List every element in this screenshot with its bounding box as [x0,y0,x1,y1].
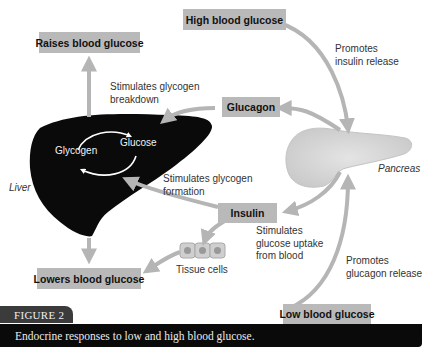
glucose-label: Glucose [120,137,157,148]
liver-label: Liver [9,182,31,195]
stimulates-glucose-uptake-label: Stimulates glucose uptake from blood [256,225,323,263]
glycogen-label: Glycogen [55,145,97,156]
stimulates-glycogen-formation-label: Stimulates glycogen formation [163,173,253,198]
insulin-box: Insulin [218,203,277,223]
low-blood-glucose-box: Low blood glucose [283,304,371,324]
tissue-cells-shape [180,243,225,258]
tissue-cells-label: Tissue cells [176,264,228,277]
promotes-insulin-release-label: Promotes insulin release [335,43,399,68]
figure-caption: Endocrine responses to low and high bloo… [0,324,422,347]
high-blood-glucose-box: High blood glucose [183,9,286,30]
endocrine-diagram: High blood glucose Raises blood glucose … [0,0,429,347]
glucagon-box: Glucagon [222,97,280,117]
pancreas-shape [286,128,412,187]
stimulates-glycogen-breakdown-label: Stimulates glycogen breakdown [110,81,200,106]
promotes-glucagon-release-label: Promotes glucagon release [346,255,422,280]
pancreas-label: Pancreas [378,163,420,176]
raises-blood-glucose-box: Raises blood glucose [39,32,140,53]
figure-number-tab: FIGURE 2 [0,306,73,323]
lowers-blood-glucose-box: Lowers blood glucose [37,268,141,289]
